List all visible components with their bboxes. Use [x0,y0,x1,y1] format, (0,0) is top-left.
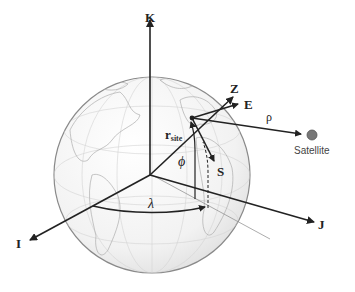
s-axis-label: S [217,164,224,179]
e-axis-label: E [244,97,253,112]
satellite-label: Satellite [294,145,330,156]
k-axis-label: K [145,10,156,25]
z-axis-label: Z [230,81,239,96]
diagram-canvas: K I J Z E S ρ Satellite rsite ϕ λ [0,0,355,292]
rho-label: ρ [266,110,272,124]
j-axis-label: J [318,217,325,232]
phi-label: ϕ [178,154,185,169]
satellite-icon [307,130,317,140]
i-axis-label: I [16,236,21,251]
lambda-label: λ [147,196,154,211]
